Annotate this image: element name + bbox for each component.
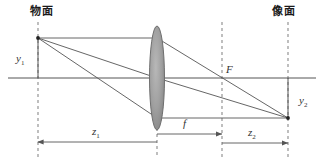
image-height-label: y2: [299, 95, 307, 109]
image-plane-label: 像面: [272, 6, 296, 17]
diagram-canvas: [0, 0, 322, 167]
object-distance-label: z1: [92, 126, 100, 140]
object-distance-subscript: 1: [96, 132, 100, 140]
image-height-subscript: 2: [304, 101, 308, 109]
focal-point-label: F: [226, 64, 233, 75]
ray-chief-incident: [38, 38, 157, 78]
image-distance-subscript: 2: [252, 133, 256, 141]
object-height-subscript: 1: [21, 59, 25, 67]
image-point: [286, 116, 290, 120]
image-distance-label: z2: [248, 127, 256, 141]
lens-element: [150, 26, 165, 130]
object-height-label: y1: [16, 53, 24, 67]
optics-ray-diagram: 物面 像面 y1 y2 F z1 f z2: [0, 0, 322, 167]
focal-length-label: f: [183, 118, 186, 129]
object-plane-label: 物面: [30, 6, 54, 17]
object-point: [36, 36, 40, 40]
